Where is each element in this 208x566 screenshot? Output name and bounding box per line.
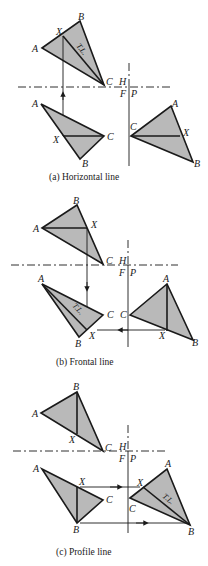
label-a: A: [171, 98, 179, 109]
front-view-triangle: [42, 469, 103, 523]
label-h: H: [118, 76, 127, 87]
label-b: B: [73, 524, 79, 535]
label-p: P: [130, 88, 137, 99]
panel-a-horizontal-line: A B X C T.L. H F P A C X B C A X B (a) H…: [18, 11, 200, 183]
orthographic-projection-figure: A B X C T.L. H F P A C X B C A X B (a) H…: [0, 0, 208, 566]
label-c: C: [107, 309, 114, 320]
label-b: B: [78, 11, 84, 22]
label-x: X: [88, 330, 96, 341]
label-c: C: [130, 121, 137, 132]
label-x: X: [78, 476, 86, 487]
panel-c-profile-line: B A X C H F P A X C B X A C B T.L. (c) P…: [13, 381, 194, 558]
label-c: C: [106, 76, 113, 87]
label-a: A: [162, 273, 170, 284]
label-c: C: [120, 309, 127, 320]
label-a: A: [31, 408, 39, 419]
label-c: C: [129, 503, 136, 514]
label-a: A: [32, 223, 40, 234]
caption: (a) Horizontal line: [49, 172, 119, 183]
label-a: A: [31, 98, 39, 109]
label-b: B: [82, 158, 88, 169]
label-c: C: [107, 131, 114, 142]
label-b: B: [194, 158, 200, 169]
top-view-triangle: [42, 205, 103, 264]
label-a: A: [37, 273, 45, 284]
label-a: A: [32, 463, 40, 474]
label-a: A: [31, 43, 39, 54]
label-h: H: [118, 255, 127, 266]
label-b: B: [75, 338, 81, 349]
label-x: X: [90, 219, 98, 230]
label-h: H: [118, 441, 127, 452]
label-p: P: [129, 267, 136, 278]
label-x: X: [52, 134, 60, 145]
front-view-triangle: [41, 104, 104, 159]
label-x: X: [158, 330, 166, 341]
label-b: B: [73, 195, 79, 206]
caption: (b) Frontal line: [56, 357, 114, 368]
label-x: X: [136, 477, 144, 488]
label-x: X: [68, 434, 76, 445]
label-b: B: [188, 526, 194, 537]
label-x: X: [55, 26, 63, 37]
label-b: B: [73, 381, 79, 392]
label-f: F: [119, 88, 127, 99]
caption: (c) Profile line: [56, 547, 111, 558]
panel-b-frontal-line: B A X C H F P A C X B T.L. C A X B (b) F…: [11, 195, 198, 368]
label-f: F: [118, 453, 126, 464]
label-c: C: [106, 255, 113, 266]
label-b: B: [192, 337, 198, 348]
label-c: C: [106, 494, 113, 505]
label-p: P: [129, 453, 136, 464]
label-c: C: [105, 442, 112, 453]
top-view-triangle: [42, 21, 104, 85]
label-a: A: [164, 458, 172, 469]
label-f: F: [118, 267, 126, 278]
label-x: X: [182, 127, 190, 138]
